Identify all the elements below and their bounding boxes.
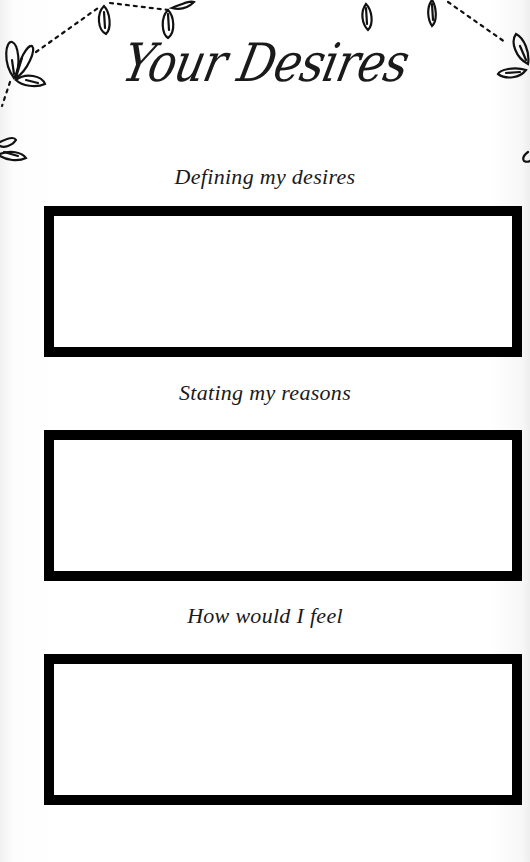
section-label-feelings: How would I feel [0,603,530,629]
writing-box-reasons[interactable] [44,430,522,581]
journal-page: Your Desires Defining my desires Stating… [0,0,530,862]
writing-box-desires[interactable] [44,206,522,357]
writing-box-feelings[interactable] [44,654,522,805]
page-title: Your Desires [0,32,530,94]
section-label-desires: Defining my desires [0,164,530,190]
section-label-reasons: Stating my reasons [0,380,530,406]
